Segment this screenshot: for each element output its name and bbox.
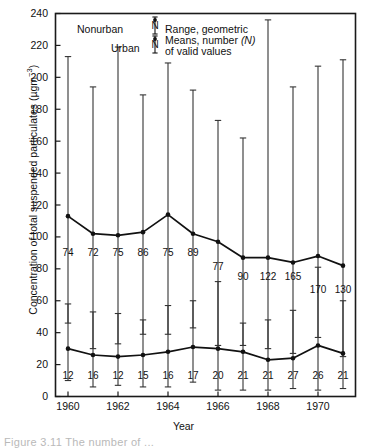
data-point-nonurban-1970 xyxy=(316,343,321,348)
legend-symbol-letter-urban: N xyxy=(151,39,158,50)
data-point-nonurban-1963 xyxy=(141,353,146,358)
data-point-urban-1960 xyxy=(66,214,71,219)
y-tick-label-220: 220 xyxy=(14,40,48,50)
y-tick-label-80: 80 xyxy=(14,263,48,273)
data-point-urban-1969 xyxy=(291,260,296,265)
y-tick-label-200: 200 xyxy=(14,72,48,82)
x-tick-label-1970: 1970 xyxy=(295,401,341,411)
legend-symbol-letter-nonurban: N xyxy=(151,20,158,31)
x-tick-label-1962: 1962 xyxy=(95,401,141,411)
data-point-nonurban-1971 xyxy=(341,351,346,356)
data-point-urban-1971 xyxy=(341,263,346,268)
data-point-urban-1967 xyxy=(241,255,246,260)
data-point-urban-1965 xyxy=(191,231,196,236)
data-point-nonurban-1966 xyxy=(216,346,221,351)
y-tick-label-120: 120 xyxy=(14,200,48,210)
y-tick-label-20: 20 xyxy=(14,359,48,369)
n-label-urban-1969: 165 xyxy=(278,272,308,282)
series-line-nonurban xyxy=(68,345,343,359)
data-point-nonurban-1965 xyxy=(191,345,196,350)
y-tick-label-100: 100 xyxy=(14,231,48,241)
data-point-urban-1961 xyxy=(91,231,96,236)
y-tick-label-240: 240 xyxy=(14,8,48,18)
data-point-urban-1964 xyxy=(166,212,171,217)
data-point-urban-1966 xyxy=(216,239,221,244)
data-point-nonurban-1964 xyxy=(166,350,171,355)
legend-description-line-3: of valid values xyxy=(165,46,232,58)
data-point-nonurban-1967 xyxy=(241,350,246,355)
legend-description-line-2-emphasis: (N) xyxy=(241,34,256,46)
x-tick-label-1968: 1968 xyxy=(245,401,291,411)
legend-label-nonurban: Nonurban xyxy=(77,24,123,36)
n-label-nonurban-1971: 21 xyxy=(328,371,358,381)
y-tick-label-60: 60 xyxy=(14,295,48,305)
y-tick-label-160: 160 xyxy=(14,136,48,146)
n-label-urban-1965: 89 xyxy=(178,248,208,258)
data-point-urban-1963 xyxy=(141,230,146,235)
data-point-urban-1962 xyxy=(116,233,121,238)
data-point-nonurban-1962 xyxy=(116,354,121,359)
x-tick-label-1964: 1964 xyxy=(145,401,191,411)
data-point-urban-1970 xyxy=(316,254,321,259)
n-label-urban-1966: 77 xyxy=(203,262,233,272)
y-axis-title-tail: ) xyxy=(27,65,39,69)
x-tick-label-1960: 1960 xyxy=(45,401,91,411)
data-point-nonurban-1961 xyxy=(91,353,96,358)
x-axis-title: Year xyxy=(0,420,367,432)
data-point-nonurban-1969 xyxy=(291,356,296,361)
legend-label-urban: Urban xyxy=(111,43,140,55)
x-tick-label-1966: 1966 xyxy=(195,401,241,411)
data-point-urban-1968 xyxy=(266,255,271,260)
y-tick-label-140: 140 xyxy=(14,168,48,178)
y-tick-label-0: 0 xyxy=(14,391,48,401)
data-point-nonurban-1968 xyxy=(266,357,271,362)
data-point-nonurban-1960 xyxy=(66,346,71,351)
figure-caption: Figure 3.11 The number of ... xyxy=(4,436,154,448)
n-label-urban-1971: 130 xyxy=(328,285,358,295)
y-tick-label-40: 40 xyxy=(14,327,48,337)
y-tick-label-180: 180 xyxy=(14,104,48,114)
plot-frame xyxy=(56,14,356,397)
